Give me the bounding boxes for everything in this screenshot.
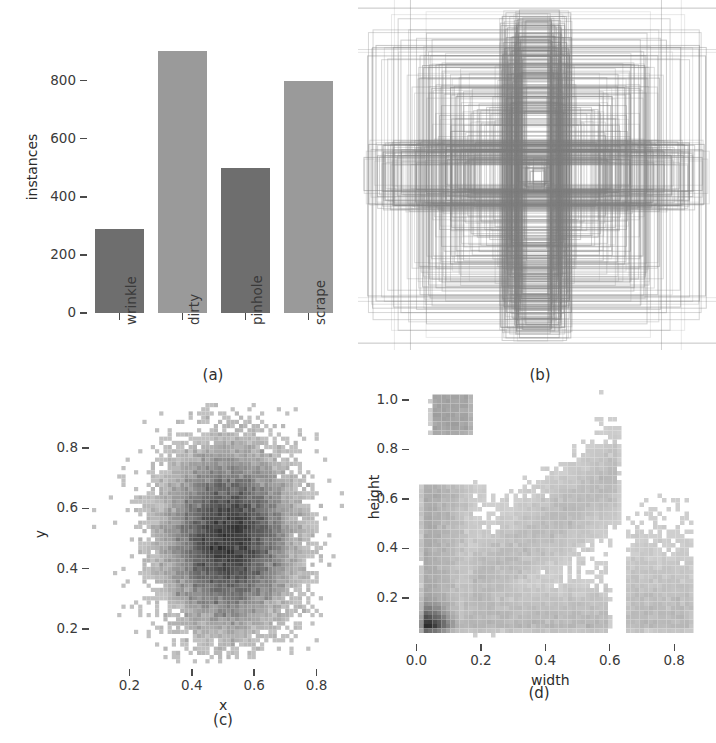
panel-c-y-tick-mark — [82, 628, 89, 629]
panel-d-x-tick-label: 0.6 — [599, 654, 620, 668]
anchor-box-overlay-canvas — [358, 0, 716, 350]
panel-a-y-tick-mark — [80, 312, 87, 313]
panel-d-histogram-canvas — [410, 390, 700, 640]
panel-c-histogram-canvas — [92, 403, 354, 665]
panel-c-y-tick-mark — [82, 447, 89, 448]
panel-d-y-tick-label: 1.0 — [377, 393, 398, 407]
panel-c-y-axis-label: y — [33, 530, 47, 538]
panel-a-y-tick-label: 800 — [50, 74, 76, 88]
panel-a-category-label: wrinkle — [125, 276, 139, 325]
panel-d-x-tick-label: 0.2 — [470, 654, 491, 668]
panel-a-y-tick-mark — [80, 196, 87, 197]
panel-d-y-tick-mark — [402, 548, 409, 549]
panel-c-x-tick-label: 0.2 — [119, 679, 140, 693]
panel-a-x-tick-mark — [245, 313, 246, 320]
panel-d-x-tick-label: 0.0 — [406, 654, 427, 668]
panel-c-x-tick-mark — [316, 669, 317, 676]
panel-a-x-tick-mark — [308, 313, 309, 320]
panel-c-y-tick-mark — [82, 508, 89, 509]
panel-a-y-tick-mark — [80, 80, 87, 81]
panel-c-x-tick-label: 0.6 — [243, 679, 264, 693]
panel-c-y-tick-label: 0.6 — [57, 502, 78, 516]
panel-c-y-tick-label: 0.8 — [57, 441, 78, 455]
panel-b-caption: (b) — [529, 368, 550, 383]
panel-d-y-tick-mark — [402, 597, 409, 598]
panel-c-x-tick-mark — [253, 669, 254, 676]
panel-a-bar-chart: instances 0200400600800 wrinkledirtypinh… — [0, 0, 358, 385]
panel-d-y-tick-label: 0.6 — [377, 492, 398, 506]
panel-a-category-label: scrape — [314, 280, 328, 325]
panel-a-x-tick-mark — [119, 313, 120, 320]
panel-d-y-tick-label: 0.8 — [377, 443, 398, 457]
panel-a-category-label: pinhole — [251, 275, 265, 325]
panel-c-x-tick-mark — [129, 669, 130, 676]
panel-a-caption: (a) — [203, 368, 224, 383]
panel-d-y-tick-label: 0.4 — [377, 542, 398, 556]
panel-d-x-tick-mark — [545, 644, 546, 651]
panel-d-y-tick-label: 0.2 — [377, 591, 398, 605]
panel-a-y-tick-label: 200 — [50, 248, 76, 262]
panel-c-xy-histogram: y x 0.20.40.60.8 0.20.40.60.8 (c) — [0, 385, 358, 743]
panel-a-category-label: dirty — [188, 294, 202, 325]
panel-d-x-tick-mark — [480, 644, 481, 651]
bar — [284, 81, 333, 313]
panel-c-x-tick-mark — [191, 669, 192, 676]
figure-panels: instances 0200400600800 wrinkledirtypinh… — [0, 0, 716, 743]
panel-d-caption: (d) — [528, 686, 549, 701]
panel-c-y-tick-label: 0.4 — [57, 562, 78, 576]
panel-c-x-tick-label: 0.4 — [181, 679, 202, 693]
panel-a-y-tick-label: 400 — [50, 190, 76, 204]
panel-a-y-tick-mark — [80, 138, 87, 139]
panel-d-x-tick-mark — [674, 644, 675, 651]
panel-a-y-tick-mark — [80, 254, 87, 255]
panel-d-x-tick-mark — [416, 644, 417, 651]
panel-c-x-tick-label: 0.8 — [306, 679, 327, 693]
panel-a-y-tick-label: 0 — [67, 306, 76, 320]
panel-d-x-tick-label: 0.8 — [663, 654, 684, 668]
bar — [158, 51, 207, 313]
panel-a-y-tick-label: 600 — [50, 132, 76, 146]
panel-d-x-tick-mark — [609, 644, 610, 651]
panel-a-x-tick-mark — [182, 313, 183, 320]
panel-a-y-axis-label: instances — [25, 133, 39, 200]
panel-b-anchor-boxes: (b) — [358, 0, 716, 385]
panel-d-width-height-histogram: height width 0.20.40.60.81.0 0.00.20.40.… — [358, 385, 716, 743]
panel-d-y-tick-mark — [402, 449, 409, 450]
panel-d-x-tick-label: 0.4 — [535, 654, 556, 668]
panel-c-caption: (c) — [213, 713, 233, 728]
panel-c-y-tick-label: 0.2 — [57, 622, 78, 636]
panel-d-y-tick-mark — [402, 399, 409, 400]
panel-c-x-axis-label: x — [219, 698, 227, 712]
panel-c-y-tick-mark — [82, 568, 89, 569]
panel-d-y-tick-mark — [402, 498, 409, 499]
